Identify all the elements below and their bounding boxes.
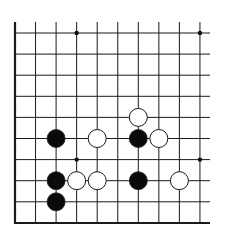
white-stone xyxy=(68,172,86,190)
board-grid xyxy=(14,22,210,223)
black-stone xyxy=(47,172,65,190)
star-point xyxy=(74,31,78,35)
white-stone xyxy=(150,130,168,148)
white-stone xyxy=(88,130,106,148)
black-stone xyxy=(47,193,65,211)
star-point xyxy=(198,157,202,161)
star-point xyxy=(198,31,202,35)
white-stone xyxy=(170,172,188,190)
black-stone xyxy=(129,130,147,148)
black-stone xyxy=(129,172,147,190)
star-point xyxy=(74,157,78,161)
white-stone xyxy=(129,108,147,126)
white-stone xyxy=(88,172,106,190)
black-stone xyxy=(47,130,65,148)
go-board xyxy=(0,0,227,241)
